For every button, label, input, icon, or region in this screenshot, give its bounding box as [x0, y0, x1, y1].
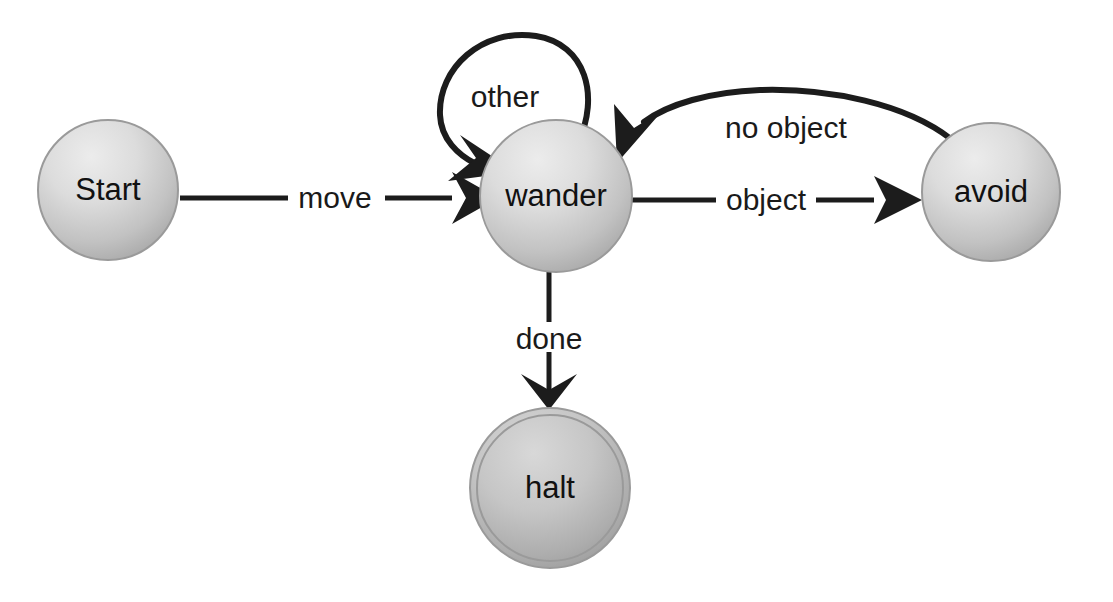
- state-diagram-canvas: Start wander avoid halt move other objec…: [0, 0, 1113, 602]
- node-avoid[interactable]: avoid: [922, 123, 1060, 261]
- edge-label-move: move: [298, 181, 371, 214]
- node-halt-label: halt: [525, 470, 575, 505]
- edge-label-object: object: [726, 183, 807, 216]
- node-start-label: Start: [75, 172, 141, 207]
- node-avoid-label: avoid: [954, 174, 1028, 209]
- edge-label-other: other: [471, 80, 539, 113]
- node-halt[interactable]: halt: [470, 408, 630, 568]
- arrowhead-object: [874, 176, 922, 224]
- edge-label-no-object: no object: [725, 111, 847, 144]
- node-wander-label: wander: [504, 178, 607, 213]
- state-machine-svg: Start wander avoid halt move other objec…: [0, 0, 1113, 602]
- node-start[interactable]: Start: [38, 120, 178, 260]
- edge-label-done: done: [516, 322, 583, 355]
- node-wander[interactable]: wander: [480, 120, 632, 272]
